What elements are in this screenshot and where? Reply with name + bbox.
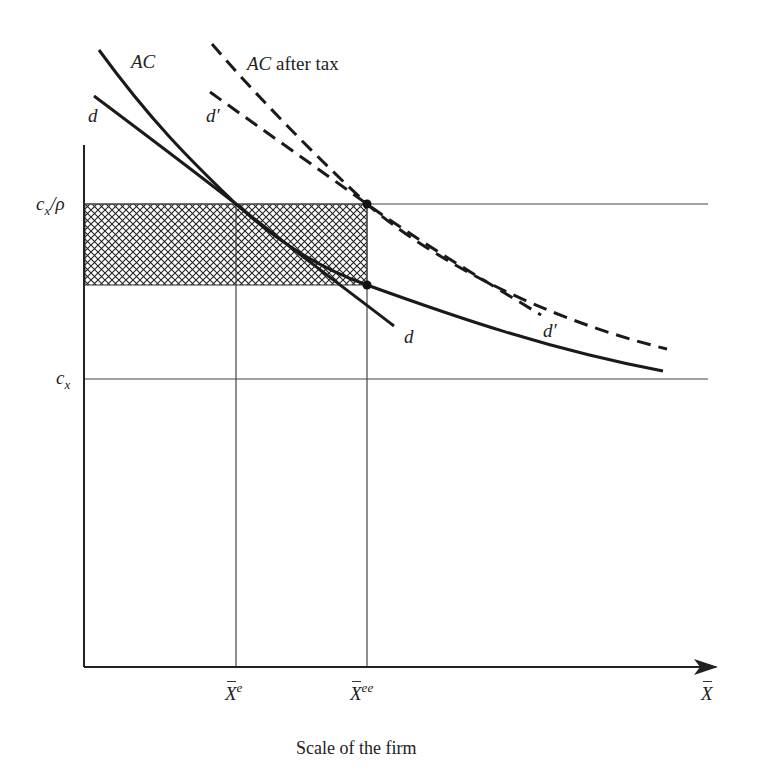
d-label-bottom: d [404,327,414,346]
cx-label: cx [56,368,70,387]
d-prime-label-top: d′ [206,106,220,125]
ac-after-tax-label-ac: AC [247,53,271,74]
cx-sub: x [64,377,70,392]
cx-over-rho-rest: /ρ [50,193,64,214]
xee-sup: ee [362,680,374,695]
ac-label: AC [131,52,155,71]
d-prime-label-bottom: d′ [543,321,557,340]
ac-after-tax-label-text: after tax [271,53,339,74]
xe-base: X [225,684,237,703]
cx-over-rho-sub: x [44,203,50,218]
cx-over-rho-label: cx/ρ [36,194,65,213]
equilibrium-point-ac [363,281,372,290]
xee-tick-label: Xee [350,684,373,703]
ac-after-tax-curve [212,44,667,349]
x-axis-caption: Scale of the firm [296,739,416,757]
equilibrium-point-after-tax [363,200,372,209]
xee-base: X [350,684,362,703]
ac-after-tax-label: AC after tax [247,54,339,73]
diagram-canvas [0,0,757,778]
xe-tick-label: Xe [225,684,242,703]
x-axis-end-label: X [701,684,713,703]
xe-sup: e [237,680,243,695]
x-axis-end-base: X [701,684,713,703]
d-label-top: d [88,106,98,125]
